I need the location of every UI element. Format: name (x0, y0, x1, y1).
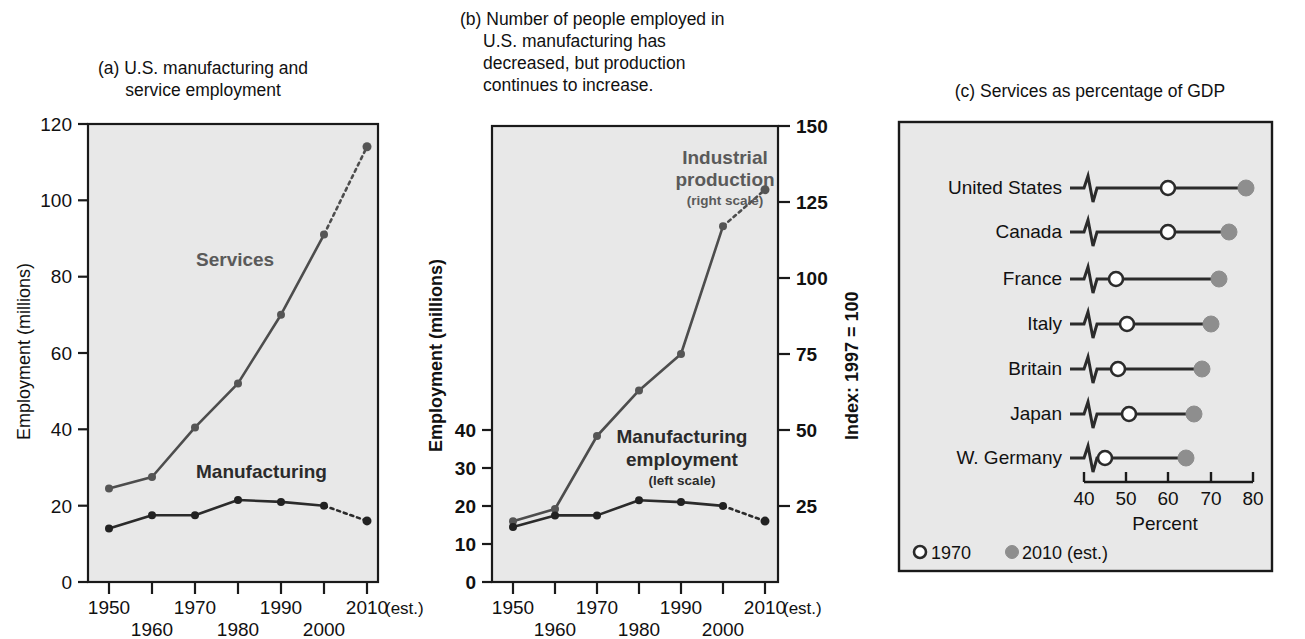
panel-b-xtick-1950: 1950 (492, 597, 534, 618)
panel-b-ytick-right-25: 25 (796, 496, 818, 517)
panel-b-ytick-right-150: 150 (796, 116, 828, 137)
panel-c-marker-2010-5 (1186, 406, 1202, 422)
panel-a-xaxis-est-note: (est.) (385, 599, 424, 618)
panel-b-ytick-right-50: 50 (796, 420, 817, 441)
panel-c-category-label-3: Italy (1027, 313, 1062, 334)
panel-c-marker-1970-5 (1122, 407, 1136, 421)
panel-b-y-axis-title-left: Employment (millions) (426, 259, 446, 452)
panel-a-ytick-0: 0 (61, 572, 72, 593)
panel-c-marker-2010-6 (1178, 450, 1194, 466)
panel-c-marker-2010-1 (1221, 224, 1237, 240)
panel-c-xtick-80: 80 (1242, 488, 1263, 509)
panel-b-xtick-2000: 2000 (702, 619, 744, 639)
panel-c-legend-label-1970: 1970 (931, 543, 971, 563)
panel-a-x-axis: 1950 1960 1970 1980 1990 2000 2010 (est.… (88, 582, 424, 639)
panel-b-xtick-1980: 1980 (618, 619, 660, 639)
panel-b: (b) Number of people employed in U.S. ma… (420, 0, 865, 639)
panel-c-marker-1970-2 (1109, 272, 1123, 286)
panel-a-ytick-40: 40 (51, 419, 72, 440)
panel-b-xtick-1970: 1970 (576, 597, 618, 618)
panel-c-xtick-60: 60 (1157, 488, 1178, 509)
panel-b-label-manufacturing-line1: Manufacturing (617, 426, 748, 447)
panel-c-category-label-6: W. Germany (956, 447, 1062, 468)
panel-a-plot-area (88, 124, 378, 582)
panel-b-ytick-left-20: 20 (455, 496, 476, 517)
panel-b-y-axis-left: 40 30 20 10 0 (455, 420, 492, 593)
panel-c-marker-1970-4 (1111, 362, 1125, 376)
filled-circle-icon (1006, 546, 1019, 559)
panel-a-xtick-1960: 1960 (131, 619, 173, 639)
panel-c-marker-1970-3 (1120, 317, 1134, 331)
panel-c-category-label-4: Britain (1008, 358, 1062, 379)
panel-a-xtick-1990: 1990 (260, 597, 302, 618)
panel-c-xtick-40: 40 (1073, 488, 1094, 509)
panel-a-ytick-80: 80 (51, 266, 72, 287)
panel-c-category-label-1: Canada (995, 221, 1062, 242)
panel-c-legend-label-2010: 2010 (est.) (1022, 543, 1108, 563)
panel-b-ytick-right-75: 75 (796, 344, 818, 365)
panel-a-chart: 120 100 80 60 40 20 0 Employment (millio… (0, 0, 440, 639)
panel-c-marker-2010-0 (1238, 180, 1254, 196)
panel-b-ytick-left-30: 30 (455, 458, 476, 479)
panel-b-y-axis-right: 150 125 100 75 50 25 (778, 116, 828, 517)
panel-b-chart: 40 30 20 10 0 Employment (millions) 150 … (420, 0, 865, 639)
panel-c: (c) Services as percentage of GDP United… (860, 0, 1305, 639)
panel-b-ytick-right-125: 125 (796, 192, 828, 213)
panel-c-chart: United States Canada France Italy (860, 0, 1305, 639)
panel-c-marker-2010-4 (1194, 361, 1210, 377)
panel-c-category-label-2: France (1003, 268, 1062, 289)
panel-b-label-industrial-production-scale: (right scale) (687, 193, 764, 208)
panel-a-label-services: Services (196, 249, 274, 270)
panel-b-ytick-left-40: 40 (455, 420, 476, 441)
panel-c-category-label-0: United States (948, 177, 1062, 198)
panel-a: (a) U.S. manufacturing and service emplo… (0, 0, 440, 639)
panel-c-marker-1970-6 (1098, 451, 1112, 465)
panel-a-xtick-1970: 1970 (174, 597, 216, 618)
panel-b-ytick-left-0: 0 (465, 572, 476, 593)
panel-c-marker-1970-1 (1161, 225, 1175, 239)
panel-b-x-axis: 1950 1960 1970 1980 1990 2000 2010 (est.… (492, 582, 822, 639)
panel-a-ytick-20: 20 (51, 496, 72, 517)
panel-b-y-axis-title-right: Index: 1997 = 100 (842, 291, 862, 440)
panel-b-label-manufacturing-scale: (left scale) (649, 473, 716, 488)
panel-c-xtick-50: 50 (1115, 488, 1136, 509)
panel-c-category-label-5: Japan (1010, 403, 1062, 424)
panel-a-ytick-100: 100 (40, 190, 72, 211)
panel-c-marker-2010-2 (1211, 271, 1227, 287)
panel-b-ytick-right-100: 100 (796, 268, 828, 289)
panel-c-marker-2010-3 (1203, 316, 1219, 332)
panel-c-xtick-70: 70 (1200, 488, 1221, 509)
panel-c-marker-1970-0 (1161, 181, 1175, 195)
panel-a-xtick-1980: 1980 (217, 619, 259, 639)
panel-b-xaxis-est-note: (est.) (783, 599, 822, 618)
panel-b-label-industrial-production-line2: production (675, 169, 774, 190)
panel-b-xtick-1990: 1990 (660, 597, 702, 618)
panel-a-ytick-60: 60 (51, 343, 72, 364)
panel-a-xtick-2000: 2000 (303, 619, 345, 639)
panel-b-label-manufacturing-line2: employment (626, 449, 739, 470)
panel-b-xtick-1960: 1960 (534, 619, 576, 639)
panel-a-xtick-1950: 1950 (88, 597, 130, 618)
open-circle-icon (914, 546, 926, 558)
panel-a-xtick-2010: 2010 (346, 597, 388, 618)
panel-b-ytick-left-10: 10 (455, 534, 476, 555)
panel-a-ytick-120: 120 (40, 114, 72, 135)
panel-a-y-axis-title: Employment (millions) (14, 263, 34, 440)
panel-c-x-axis-title: Percent (1132, 513, 1198, 534)
panel-a-label-manufacturing: Manufacturing (196, 461, 327, 482)
panel-b-xtick-2010: 2010 (744, 597, 786, 618)
panel-b-label-industrial-production-line1: Industrial (682, 147, 768, 168)
panel-a-y-axis: 120 100 80 60 40 20 0 (40, 114, 88, 593)
